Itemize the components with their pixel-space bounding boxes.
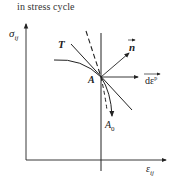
label-dep-main: dε <box>145 75 154 86</box>
label-A0-sub: 0 <box>111 125 115 133</box>
y-axis-label: σij <box>9 27 18 42</box>
y-axis-label-sub: ij <box>14 34 18 42</box>
x-axis-label-sub: ij <box>150 169 154 177</box>
diagram-canvas <box>0 0 178 178</box>
label-n: n <box>129 41 135 53</box>
label-A0: A0 <box>105 119 115 133</box>
label-dep: dεp <box>145 75 157 86</box>
normal-vector-arrow <box>101 53 129 77</box>
label-T: T <box>58 38 65 50</box>
label-A: A <box>88 74 95 85</box>
label-dep-sup: p <box>154 75 157 81</box>
x-axis-label: εij <box>146 163 154 177</box>
